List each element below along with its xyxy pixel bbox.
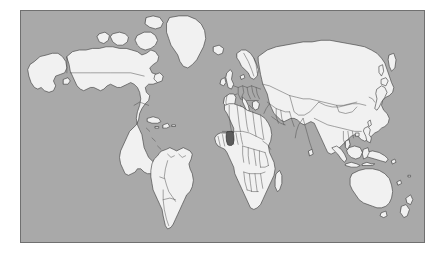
- puerto-rico-shape: [172, 125, 175, 127]
- world-map-figure: [0, 0, 441, 254]
- jamaica-shape: [155, 127, 158, 129]
- fiji-shape: [408, 175, 410, 177]
- world-map-svg[interactable]: [21, 11, 424, 242]
- map-frame: [20, 10, 425, 243]
- sri-lanka-shape: [309, 149, 313, 156]
- hainan-shape: [356, 133, 359, 136]
- highlighted-country-ghana[interactable]: [226, 131, 234, 145]
